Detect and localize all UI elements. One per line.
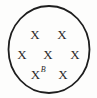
point-marker: X [30, 28, 39, 41]
point-glyph-x: X [57, 27, 66, 42]
point-marker: X [70, 48, 79, 61]
point-marker: X [58, 68, 67, 81]
point-marker: X [17, 48, 26, 61]
point-glyph-x: X [31, 67, 40, 82]
point-glyph-x: X [58, 67, 67, 82]
point-glyph-x: X [43, 47, 52, 62]
point-marker-layer: XXXXXXBX [0, 0, 97, 98]
point-superscript-label: B [41, 65, 46, 74]
point-marker: X [57, 28, 66, 41]
figure-container: XXXXXXBX [0, 0, 97, 98]
point-glyph-x: X [17, 47, 26, 62]
point-marker: X [43, 48, 52, 61]
point-glyph-x: X [30, 27, 39, 42]
point-glyph-x: X [70, 47, 79, 62]
point-marker: XB [31, 67, 45, 80]
